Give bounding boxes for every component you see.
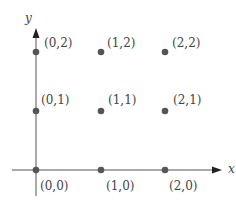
point-label-0-1: (0,1)	[41, 93, 69, 107]
point-label-2-2: (2,2)	[172, 36, 200, 50]
point-2-0	[162, 167, 169, 174]
point-1-2	[98, 49, 105, 56]
point-label-2-1: (2,1)	[173, 93, 201, 107]
point-0-1	[33, 108, 40, 115]
point-label-0-2: (0,2)	[44, 36, 72, 50]
x-axis-arrow-icon	[212, 167, 222, 174]
x-axis-label: x	[228, 162, 235, 176]
point-2-1	[162, 108, 169, 115]
point-2-2	[162, 49, 169, 56]
point-label-1-2: (1,2)	[107, 36, 135, 50]
y-axis-arrow-icon	[33, 28, 40, 38]
point-label-2-0: (2,0)	[169, 179, 197, 193]
point-label-1-1: (1,1)	[108, 93, 136, 107]
point-1-1	[98, 108, 105, 115]
lattice-figure: x y (0,2) (1,2) (2,2) (0,1) (1,1) (2,1) …	[0, 0, 236, 210]
coordinate-plane: x y (0,2) (1,2) (2,2) (0,1) (1,1) (2,1) …	[0, 0, 236, 210]
y-axis-label: y	[24, 11, 32, 25]
point-0-0	[33, 167, 40, 174]
point-label-0-0: (0,0)	[40, 179, 68, 193]
point-0-2	[33, 49, 40, 56]
point-label-1-0: (1,0)	[106, 179, 134, 193]
point-1-0	[98, 167, 105, 174]
